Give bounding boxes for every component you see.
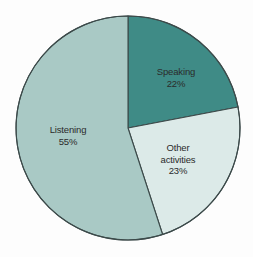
pie-label-listening: Listening 55% — [25, 124, 111, 147]
pie-label-other-activities: Other activities 23% — [135, 142, 221, 177]
pie-label-speaking-name: Speaking — [133, 66, 219, 78]
pie-label-speaking: Speaking 22% — [133, 66, 219, 89]
pie-chart: Speaking 22% Listening 55% Other activit… — [0, 0, 253, 257]
pie-label-other-activities-name: Other — [135, 142, 221, 154]
pie-label-speaking-value: 22% — [133, 78, 219, 90]
pie-label-listening-name: Listening — [25, 124, 111, 136]
pie-label-other-activities-value: 23% — [135, 165, 221, 177]
pie-label-other-activities-name2: activities — [135, 154, 221, 166]
pie-label-listening-value: 55% — [25, 136, 111, 148]
